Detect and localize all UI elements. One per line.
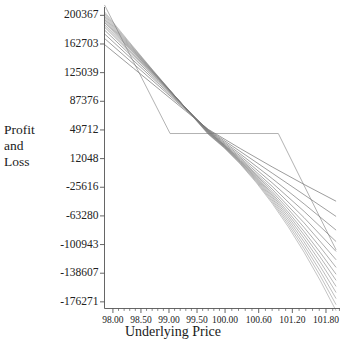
y-tick-label: -138607 <box>60 266 98 278</box>
y-tick-label: 162703 <box>64 37 99 49</box>
y-tick-label: 12048 <box>70 152 99 164</box>
y-axis-title-line-3: Loss <box>4 154 56 170</box>
profit-loss-chart <box>0 0 346 347</box>
y-tick-label: 200367 <box>64 8 99 20</box>
data-series-group <box>105 5 337 311</box>
x-tick-label: 101.80 <box>300 315 346 325</box>
series-expiry-payoff <box>105 5 337 250</box>
chart-container: Profit and Loss Underlying Price 2003671… <box>0 0 346 347</box>
y-tick-label: -100943 <box>60 238 98 250</box>
y-axis-title: Profit and Loss <box>4 122 56 170</box>
y-tick-label: -176271 <box>60 295 98 307</box>
y-tick-label: 125039 <box>64 66 99 78</box>
y-tick-label: -63280 <box>66 209 99 221</box>
y-axis-title-line-1: Profit <box>4 122 56 138</box>
series-decay-curve-14 <box>105 45 337 202</box>
x-axis-title: Underlying Price <box>0 324 346 340</box>
y-axis-title-line-2: and <box>4 138 56 154</box>
y-tick-label: -25616 <box>66 180 99 192</box>
y-tick-label: 87376 <box>70 94 99 106</box>
series-decay-curve-13 <box>105 38 337 216</box>
y-tick-label: 49712 <box>70 123 99 135</box>
